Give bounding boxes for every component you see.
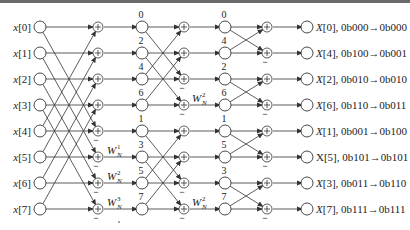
edge [230, 30, 263, 50]
stage2-node [136, 125, 148, 137]
nodes [34, 21, 313, 223]
output-label: X[1], 0b001→0b100 [315, 125, 408, 137]
input-label: x[2] [12, 73, 31, 85]
twiddle-sup: 2 [202, 91, 206, 99]
twiddle-label: W [192, 92, 202, 104]
edge [230, 186, 263, 206]
minus-sign: − [179, 83, 184, 93]
edge [230, 186, 263, 206]
stage2-node [136, 177, 148, 189]
input-node [34, 99, 46, 111]
labels: x[0]00X[0], 0b000→0b000x[1]24X[4], 0b100… [12, 9, 408, 223]
stage3-index: 4 [222, 35, 227, 46]
stage3-index: 5 [222, 139, 227, 150]
stage3-index: 0 [222, 9, 227, 20]
input-label: x[4] [12, 125, 31, 137]
edge [43, 57, 96, 151]
stage2-index: 4 [139, 61, 144, 72]
minus-sign: − [262, 213, 267, 223]
output-label: X[0], 0b000→0b000 [315, 21, 408, 33]
stage2-node [136, 21, 148, 33]
input-label: x[1] [12, 47, 31, 59]
stage3-index: 6 [222, 87, 227, 98]
minus-sign: − [179, 109, 184, 119]
output-label: X[2], 0b010→0b010 [315, 73, 408, 85]
input-label: x[6] [12, 177, 31, 189]
stage3-node [219, 203, 231, 215]
output-node [301, 21, 313, 33]
input-node [34, 151, 46, 163]
output-label: X[7], 0b111→0b111 [315, 203, 405, 215]
input-node [34, 203, 46, 215]
twiddle-sub: N [201, 203, 207, 211]
stage3-node [219, 177, 231, 189]
minus-sign: − [262, 161, 267, 171]
minus-sign: − [93, 187, 98, 197]
edge [230, 134, 263, 154]
output-node [301, 99, 313, 111]
twiddle-sub: N [116, 203, 122, 211]
stage2-index: 1 [139, 113, 144, 124]
stage3-node [219, 73, 231, 85]
input-node [34, 177, 46, 189]
stage3-node [219, 151, 231, 163]
stray-dot [118, 221, 120, 223]
input-label: x[3] [12, 99, 31, 111]
minus-sign: − [93, 135, 98, 145]
stage2-index: 5 [139, 165, 144, 176]
output-node [301, 47, 313, 59]
input-label: x[0] [12, 21, 31, 33]
minus-sign: − [262, 57, 267, 67]
edge [43, 84, 96, 178]
edge [43, 31, 96, 125]
stage3-index: 3 [222, 165, 227, 176]
edge [230, 30, 263, 50]
input-label: x[5] [12, 151, 31, 163]
edge [43, 58, 96, 152]
twiddle-sub: N [201, 99, 207, 107]
input-node [34, 21, 46, 33]
stage2-node [136, 203, 148, 215]
stage3-node [219, 99, 231, 111]
twiddle-sup: 3 [117, 195, 121, 203]
edge [230, 134, 263, 154]
twiddle-label: W [107, 170, 117, 182]
stage3-node [219, 47, 231, 59]
minus-sign: − [93, 161, 98, 171]
twiddle-sup: 2 [117, 169, 121, 177]
twiddle-sup: 2 [202, 195, 206, 203]
edge [43, 83, 96, 177]
minus-sign: − [262, 109, 267, 119]
stage2-node [136, 73, 148, 85]
input-label: x[7] [12, 203, 31, 215]
edge [43, 109, 96, 203]
edge [43, 110, 96, 204]
twiddle-label: W [107, 196, 117, 208]
output-label: X[3], 0b011→0b110 [315, 177, 407, 189]
output-label: X[6], 0b110→0b011 [315, 99, 406, 111]
input-node [34, 125, 46, 137]
output-label: X[4], 0b100→0b001 [315, 47, 407, 59]
minus-sign: − [179, 213, 184, 223]
output-node [301, 125, 313, 137]
twiddle-label: W [192, 196, 202, 208]
stage2-index: 7 [139, 191, 144, 202]
stage2-index: 6 [139, 87, 144, 98]
stage2-node [136, 151, 148, 163]
twiddle-sub: N [116, 151, 122, 159]
stage3-node [219, 21, 231, 33]
stage3-index: 7 [222, 191, 227, 202]
input-node [34, 47, 46, 59]
stage2-index: 0 [139, 9, 144, 20]
input-node [34, 73, 46, 85]
fft-butterfly-diagram: x[0]00X[0], 0b000→0b000x[1]24X[4], 0b100… [0, 0, 410, 230]
minus-sign: − [93, 213, 98, 223]
minus-sign: − [179, 187, 184, 197]
twiddle-sup: 1 [117, 143, 121, 151]
stage3-index: 1 [222, 113, 227, 124]
edge [43, 32, 96, 126]
stage3-index: 2 [222, 61, 227, 72]
twiddle-sub: N [116, 177, 122, 185]
output-node [301, 203, 313, 215]
output-label: X[5], 0b101→0b101 [316, 151, 408, 163]
